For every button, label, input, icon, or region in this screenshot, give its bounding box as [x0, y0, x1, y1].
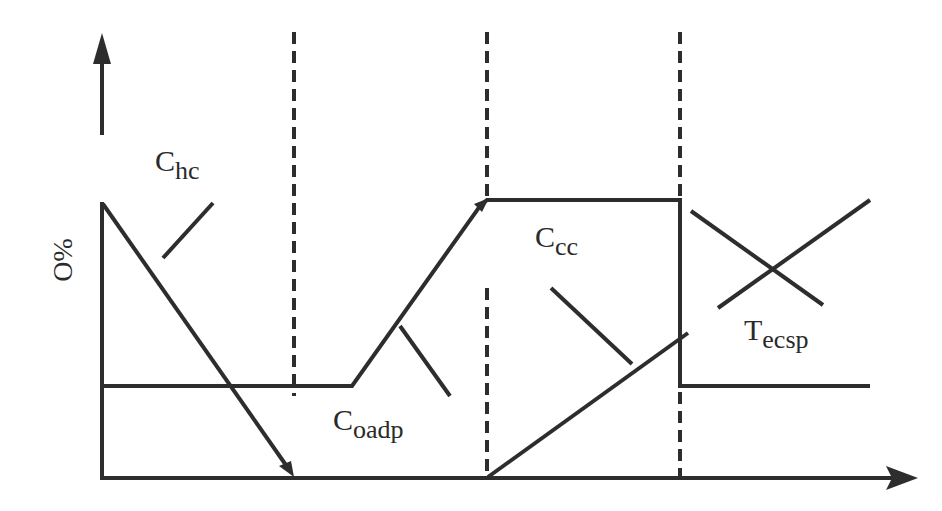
x-axis — [100, 466, 918, 490]
tecsp-line-ascending — [718, 200, 870, 308]
phase-diagram: %O Chc Coadp Ccc Tecsp — [0, 0, 942, 511]
label-coadp: Coadp — [333, 403, 404, 444]
y-axis-arrow-icon — [93, 33, 111, 135]
label-chc: Chc — [155, 144, 200, 185]
ccc-pointer — [551, 288, 632, 364]
label-tecsp: Tecsp — [744, 313, 809, 354]
chc-pointer — [163, 203, 213, 258]
label-ccc: Ccc — [535, 220, 578, 261]
coadp-pointer — [400, 326, 450, 396]
y-axis-label: %O — [48, 238, 79, 282]
tecsp-line-descending — [691, 211, 823, 305]
chc-curve — [103, 204, 294, 477]
ccc-rising-curve — [488, 333, 688, 477]
